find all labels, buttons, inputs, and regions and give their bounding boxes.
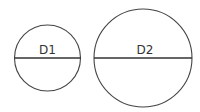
label-d1: D1 — [39, 43, 56, 57]
circle-d1: D1 — [15, 25, 81, 91]
label-d2: D2 — [137, 43, 154, 57]
circle-d2: D2 — [94, 9, 192, 107]
diagram-canvas: D1 D2 — [0, 0, 200, 112]
